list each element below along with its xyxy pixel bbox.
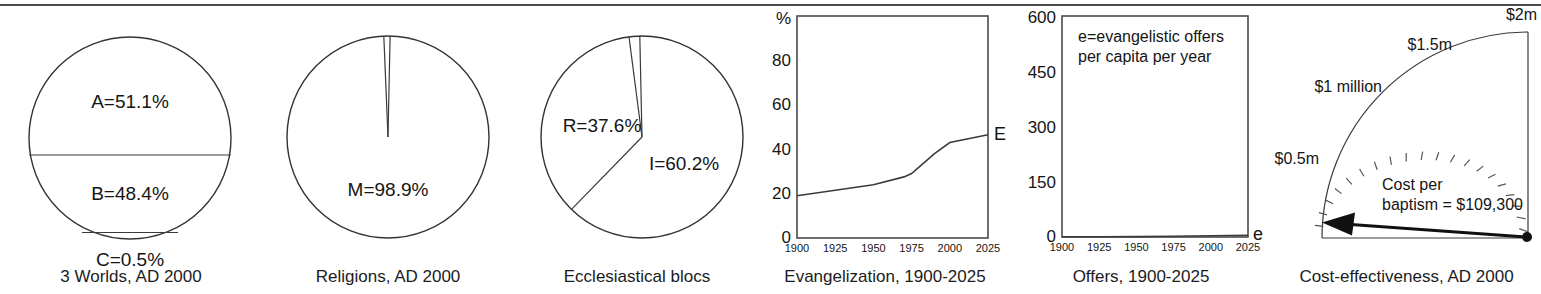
evangelization-line-chart: % 80 60 40 20 0 1900 1925 1950 1975 2000…: [760, 0, 1010, 262]
three-worlds-circle-chart: A=51.1% B=48.4% C=0.5%: [0, 0, 262, 260]
panel-evangelization: % 80 60 40 20 0 1900 1925 1950 1975 2000…: [760, 0, 1010, 294]
x-tick-label-1925: 1925: [1087, 241, 1111, 253]
gauge-scale-label-2m: $2m: [1506, 6, 1537, 23]
slice-label-r: R=37.6%: [563, 115, 642, 136]
y-tick-label-60: 60: [772, 95, 791, 114]
slice-label-b: B=48.4%: [91, 183, 169, 204]
slice-divider-start: [384, 36, 388, 137]
annotation-line-1: e=evangelistic offers: [1078, 28, 1224, 45]
slice-label-i: I=60.2%: [649, 153, 719, 174]
y-tick-label-40: 40: [772, 140, 791, 159]
panel-religions: M=98.9% Religions, AD 2000: [262, 0, 514, 294]
panel-cost-effectiveness: $0.5m $1 million $1.5m $2m Cost per bapt…: [1272, 0, 1541, 294]
y-tick-label-300: 300: [1028, 118, 1056, 137]
panel-caption-ecclesiastical-blocs: Ecclesiastical blocs: [514, 267, 760, 287]
x-tick-label-1975: 1975: [899, 242, 923, 254]
slice-label-m: M=98.9%: [348, 179, 429, 200]
panel-caption-offers: Offers, 1900-2025: [1010, 267, 1272, 287]
gauge-scale-label-0-5m: $0.5m: [1275, 150, 1319, 167]
panel-three-worlds: A=51.1% B=48.4% C=0.5% 3 Worlds, AD 2000: [0, 0, 262, 294]
gauge-needle: [1344, 224, 1526, 237]
x-tick-label-1925: 1925: [823, 242, 847, 254]
y-tick-label-20: 20: [772, 184, 791, 203]
gauge-scale-label-1-5m: $1.5m: [1408, 36, 1452, 53]
panel-ecclesiastical-blocs: R=37.6% I=60.2% Ecclesiastical blocs: [514, 0, 760, 294]
series-line-E: [797, 135, 988, 196]
gauge-annotation-line-2: baptism = $109,300: [1382, 196, 1523, 213]
ecclesiastical-blocs-pie-chart: R=37.6% I=60.2%: [514, 0, 760, 260]
slice-label-a: A=51.1%: [91, 91, 169, 112]
x-tick-label-1975: 1975: [1161, 241, 1185, 253]
panel-caption-three-worlds: 3 Worlds, AD 2000: [0, 267, 262, 287]
annotation-line-2: per capita per year: [1078, 48, 1212, 65]
series-label-E: E: [994, 124, 1006, 144]
y-tick-label-600: 600: [1028, 8, 1056, 27]
religions-pie-chart: M=98.9%: [262, 0, 514, 260]
panel-offers: 600 450 300 150 0 e=evangelistic offers …: [1010, 0, 1272, 294]
gauge-annotation-line-1: Cost per: [1382, 176, 1443, 193]
y-axis-unit-label: %: [776, 9, 791, 28]
gauge-needle-arrowhead: [1322, 213, 1355, 236]
slice-divider-r-i: [572, 137, 643, 209]
x-tick-label-1950: 1950: [861, 242, 885, 254]
x-tick-label-2025: 2025: [976, 242, 1000, 254]
cost-effectiveness-gauge-chart: $0.5m $1 million $1.5m $2m Cost per bapt…: [1272, 0, 1541, 262]
pie-outline: [29, 37, 231, 239]
x-tick-label-2000: 2000: [1199, 241, 1223, 253]
figure-strip: A=51.1% B=48.4% C=0.5% 3 Worlds, AD 2000…: [0, 0, 1541, 294]
slice-divider-end: [388, 36, 390, 137]
y-tick-label-150: 150: [1028, 173, 1056, 192]
gauge-pivot: [1522, 232, 1532, 242]
offers-line-chart: 600 450 300 150 0 e=evangelistic offers …: [1010, 0, 1272, 262]
series-label-e: e: [1253, 224, 1263, 244]
gauge-scale-label-1-million: $1 million: [1314, 78, 1382, 95]
x-tick-label-1900: 1900: [785, 242, 809, 254]
plot-frame: [797, 16, 988, 238]
x-tick-label-1950: 1950: [1124, 241, 1148, 253]
x-tick-label-1900: 1900: [1050, 241, 1074, 253]
x-tick-label-2000: 2000: [938, 242, 962, 254]
y-tick-label-80: 80: [772, 51, 791, 70]
y-tick-label-450: 450: [1028, 63, 1056, 82]
panel-caption-cost-effectiveness: Cost-effectiveness, AD 2000: [1272, 267, 1541, 287]
panel-caption-evangelization: Evangelization, 1900-2025: [760, 267, 1010, 287]
panel-caption-religions: Religions, AD 2000: [262, 267, 514, 287]
